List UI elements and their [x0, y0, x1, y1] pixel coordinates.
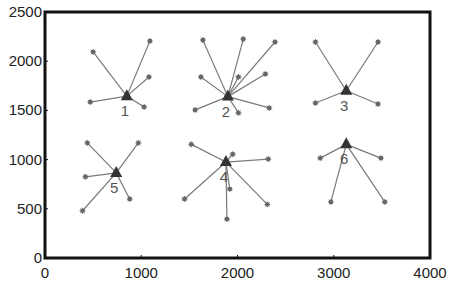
asterisk-marker [192, 107, 198, 113]
asterisk-marker [265, 156, 271, 162]
asterisk-marker [235, 110, 241, 116]
asterisk-marker [135, 140, 141, 146]
y-tick-label: 1500 [9, 101, 42, 118]
connection-line [226, 162, 267, 204]
centroid-markers [110, 84, 352, 177]
y-tick-label: 2000 [9, 52, 42, 69]
y-axis: 05001000150020002500 [9, 3, 48, 266]
y-tick-label: 500 [17, 200, 42, 217]
connection-line [191, 144, 226, 162]
asterisk-marker [317, 155, 323, 161]
asterisk-marker [272, 39, 278, 45]
asterisk-marker [200, 37, 206, 43]
plot-frame [45, 12, 430, 258]
cluster-label: 6 [340, 150, 348, 167]
asterisk-marker [375, 39, 381, 45]
connection-line [93, 52, 127, 96]
asterisk-marker [312, 39, 318, 45]
x-tick-label: 2000 [221, 264, 254, 281]
connection-lines [83, 39, 385, 219]
asterisk-marker [230, 151, 236, 157]
cluster-label: 3 [340, 97, 348, 114]
asterisk-marker [224, 216, 230, 222]
asterisk-marker [188, 141, 194, 147]
asterisk-marker [141, 104, 147, 110]
asterisk-marker [127, 196, 133, 202]
centroid-triangle-icon [340, 137, 352, 148]
connection-line [315, 42, 346, 91]
asterisk-marker [266, 105, 272, 111]
connection-line [346, 144, 385, 202]
x-tick-label: 1000 [125, 264, 158, 281]
asterisk-marker [264, 201, 270, 207]
asterisk-marker [240, 36, 246, 42]
asterisk-marker [382, 199, 388, 205]
asterisk-marker [378, 155, 384, 161]
connection-line [87, 143, 116, 173]
asterisk-marker [198, 74, 204, 80]
connection-line [127, 41, 150, 96]
asterisk-marker [146, 74, 152, 80]
connection-line [226, 159, 268, 162]
asterisk-marker [147, 38, 153, 44]
y-tick-label: 1000 [9, 151, 42, 168]
asterisk-marker [90, 49, 96, 55]
y-tick-label: 2500 [9, 3, 42, 20]
member-markers [80, 36, 388, 222]
asterisk-marker [182, 196, 188, 202]
cluster-label: 2 [222, 103, 230, 120]
asterisk-marker [262, 71, 268, 77]
asterisk-marker [312, 100, 318, 106]
connection-line [346, 42, 378, 91]
y-tick-label: 0 [34, 249, 42, 266]
cluster-scatter-chart: 123456 01000200030004000 050010001500200… [0, 0, 450, 291]
asterisk-marker [87, 99, 93, 105]
cluster-label: 5 [110, 179, 118, 196]
asterisk-marker [328, 199, 334, 205]
cluster-label: 4 [220, 168, 228, 185]
asterisk-marker [375, 101, 381, 107]
asterisk-marker [82, 174, 88, 180]
connection-line [116, 143, 138, 173]
x-tick-label: 0 [41, 264, 49, 281]
connection-line [127, 77, 149, 96]
asterisk-marker [235, 74, 241, 80]
asterisk-marker [227, 186, 233, 192]
asterisk-marker [80, 208, 86, 214]
cluster-label: 1 [121, 102, 129, 119]
asterisk-marker [84, 140, 90, 146]
x-tick-label: 4000 [413, 264, 446, 281]
x-tick-label: 3000 [317, 264, 350, 281]
